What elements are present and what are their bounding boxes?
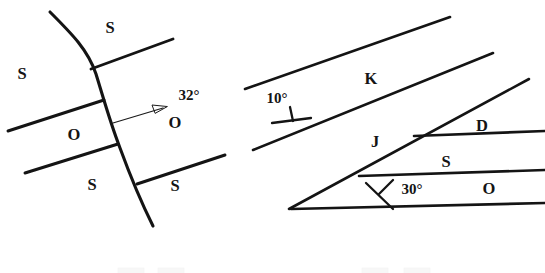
- left-map-group: S S O O S S 32°: [8, 12, 225, 226]
- movement-arrow-shaft: [113, 108, 163, 123]
- contact-lower-left: [25, 144, 118, 173]
- unit-label-s-bottom-right: S: [170, 176, 179, 195]
- unit-label-s-right: S: [441, 152, 450, 171]
- left-map-contacts: [8, 39, 225, 184]
- unit-label-s-left: S: [17, 64, 26, 83]
- figure-canvas: S S O O S S 32° 10°: [0, 0, 545, 273]
- dip-tick-10: [290, 107, 293, 121]
- strike-dip-symbol-10: [272, 107, 311, 123]
- legend-strip: [118, 268, 430, 273]
- unit-label-s-bottom-left: S: [87, 175, 96, 194]
- dip-angle-label-30: 30°: [402, 181, 423, 197]
- legend-swatch-1: [118, 268, 144, 273]
- contact-mid-left: [8, 100, 104, 131]
- k-top-line: [245, 17, 450, 89]
- unit-label-s-top: S: [105, 18, 114, 37]
- contact-upper: [91, 39, 173, 69]
- dip-angle-label-32: 32°: [179, 87, 200, 103]
- o-top-line: [291, 203, 545, 209]
- unit-label-k: K: [365, 69, 378, 88]
- fault-trace-curve: [50, 12, 153, 226]
- unit-label-d: D: [476, 116, 488, 135]
- dip-angle-label-10: 10°: [267, 90, 288, 106]
- contact-lower-right: [137, 155, 225, 184]
- legend-swatch-3: [362, 268, 388, 273]
- legend-swatch-4: [404, 268, 430, 273]
- dip-tick-30: [379, 180, 393, 194]
- unit-label-o-left: O: [68, 125, 81, 144]
- unit-label-o-far-right: O: [483, 179, 496, 198]
- strike-line-30: [366, 183, 393, 209]
- movement-arrow: [113, 105, 167, 123]
- right-map-group: 10° 30° K J D S O: [245, 17, 545, 209]
- strike-dip-symbol-30: [366, 180, 393, 209]
- unit-label-o-right: O: [169, 113, 182, 132]
- s-base-line: [359, 170, 545, 176]
- legend-swatch-2: [158, 268, 184, 273]
- unit-label-j: J: [371, 132, 379, 151]
- geologic-map-figure: S S O O S S 32° 10°: [0, 0, 545, 273]
